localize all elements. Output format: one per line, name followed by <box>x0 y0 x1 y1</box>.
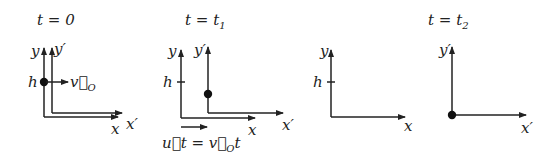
panel-t2: t = t2 y′ x′ <box>428 11 533 137</box>
height-label: h <box>163 73 173 91</box>
particle-dot <box>204 90 212 98</box>
panel-title: t = t1 <box>185 11 226 31</box>
reference-frames-diagram: t = 0 y y′ x x′ h v⃗O t = t1 y y′ x x′ h <box>0 0 558 158</box>
y-prime-label: y′ <box>193 41 206 59</box>
x-prime-label: x′ <box>282 116 294 134</box>
panel-t0: t = 0 y y′ x x′ h v⃗O <box>28 11 138 138</box>
x-label: x <box>248 121 257 139</box>
x-prime-label: x′ <box>521 119 533 137</box>
y-label: y <box>319 42 329 60</box>
y-prime-label: y′ <box>438 41 451 59</box>
height-label: h <box>28 73 38 91</box>
y-label: y <box>30 42 40 60</box>
particle-dot <box>448 111 456 119</box>
y-label: y <box>167 42 177 60</box>
velocity-label: v⃗O <box>70 73 96 93</box>
x-label: x <box>404 117 413 135</box>
panel-t1: t = t1 y y′ x x′ h u⃗t = v⃗Ot <box>162 11 294 154</box>
panel-title: t = t2 <box>428 11 469 31</box>
displacement-label: u⃗t = v⃗Ot <box>162 134 241 154</box>
panel-ground-frame: y x h <box>313 42 413 135</box>
panel-title: t = 0 <box>37 11 75 29</box>
height-label: h <box>313 73 323 91</box>
x-prime-label: x′ <box>126 115 138 133</box>
y-prime-label: y′ <box>53 40 66 58</box>
x-label: x <box>111 120 120 138</box>
